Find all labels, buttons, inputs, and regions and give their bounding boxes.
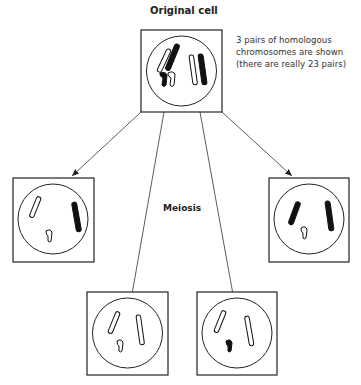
arrow-to-gamete-4: [222, 112, 292, 176]
arrow-to-gamete-2: [131, 112, 164, 300]
process-label: Meiosis: [163, 203, 201, 213]
gamete-cell-4: [269, 178, 349, 262]
gamete-cell-1: [13, 178, 94, 262]
diagram-title: Original cell: [150, 5, 218, 16]
note-line-1: 3 pairs of homologous: [236, 35, 332, 45]
chromosome-note: 3 pairs of homologous chromosomes are sh…: [236, 34, 346, 70]
arrow-to-gamete-3: [200, 112, 234, 300]
note-line-2: chromosomes are shown: [236, 47, 343, 57]
original-cell: [141, 30, 222, 112]
gamete-cell-3: [197, 292, 277, 375]
arrow-to-gamete-1: [72, 112, 141, 176]
gamete-cell-2: [87, 292, 168, 375]
note-line-3: (there are really 23 pairs): [236, 59, 346, 69]
